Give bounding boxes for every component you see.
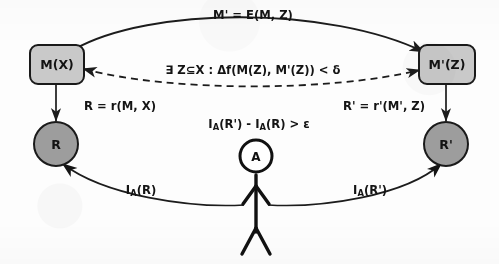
actor-leg-right xyxy=(256,228,270,254)
edge-label-result-left: R = r(M, X) xyxy=(84,99,156,113)
node-result-extracted-label: R' xyxy=(439,137,452,152)
diagram-canvas: M(X) M'(Z) R R' A xyxy=(0,0,499,264)
edge-label-interest-right: IA(R') xyxy=(325,183,407,198)
node-result-original-label: R xyxy=(51,137,61,152)
edge-label-fidelity: ∃ Z⊆X : Δf(M(Z), M'(Z)) < δ xyxy=(165,63,340,77)
edge-label-utility-gain: IA(R') - IA(R) > ε xyxy=(180,117,330,132)
edge-extraction-path xyxy=(73,17,424,52)
node-model-extracted[interactable]: M'(Z) xyxy=(419,45,475,84)
diagram-svg: M(X) M'(Z) R R' A xyxy=(0,0,499,264)
edge-label-interest-left: IA(R) xyxy=(98,183,177,198)
node-actor[interactable]: A xyxy=(240,140,272,254)
actor-leg-left xyxy=(242,228,256,254)
node-model-original-label: M(X) xyxy=(40,57,74,72)
node-result-extracted[interactable]: R' xyxy=(424,122,468,166)
interest-left-seg-2: (R) xyxy=(137,183,157,197)
utility-gain-seg-5: (R) > ε xyxy=(266,117,310,131)
interest-right-seg-2: (R') xyxy=(364,183,387,197)
utility-gain-seg-2: (R') - xyxy=(219,117,255,131)
node-actor-label: A xyxy=(251,150,261,164)
edge-label-result-right: R' = r'(M', Z) xyxy=(343,99,425,113)
node-result-original[interactable]: R xyxy=(34,122,78,166)
edge-label-extraction: M' = E(M, Z) xyxy=(213,8,293,22)
actor-arm-right xyxy=(256,186,269,204)
node-model-original[interactable]: M(X) xyxy=(30,45,84,84)
actor-arm-left xyxy=(243,186,256,204)
node-model-extracted-label: M'(Z) xyxy=(429,57,466,72)
